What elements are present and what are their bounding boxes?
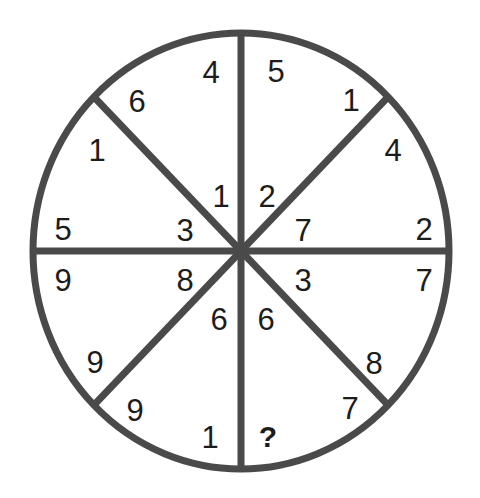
sector-number: 9 xyxy=(54,265,71,296)
sector-number: 9 xyxy=(126,395,143,426)
sector-number: 1 xyxy=(212,181,229,212)
sector-number: 1 xyxy=(201,422,218,453)
sector-number: 8 xyxy=(365,348,382,379)
sector-number: 7 xyxy=(341,393,358,424)
sector-number: 4 xyxy=(384,135,401,166)
puzzle-stage: 4 5 6 1 1 4 1 2 5 3 7 2 9 8 3 7 6 6 9 8 … xyxy=(0,0,480,498)
sector-number: 6 xyxy=(210,304,227,335)
sector-number: 8 xyxy=(176,265,193,296)
sector-number: 3 xyxy=(176,215,193,246)
sector-number: 5 xyxy=(267,56,284,87)
sector-number: 7 xyxy=(415,265,432,296)
sector-number: 9 xyxy=(86,347,103,378)
sector-number: 6 xyxy=(128,86,145,117)
sector-number: 6 xyxy=(257,304,274,335)
sector-number: 1 xyxy=(342,85,359,116)
sector-number: 7 xyxy=(294,215,311,246)
sector-number: 4 xyxy=(202,57,219,88)
sector-number: 5 xyxy=(54,214,71,245)
sector-number: 2 xyxy=(258,181,275,212)
circle-sector-diagram xyxy=(0,0,480,498)
sector-number: 1 xyxy=(88,135,105,166)
missing-value-question-mark: ? xyxy=(259,422,277,452)
sector-number: 2 xyxy=(415,214,432,245)
sector-number: 3 xyxy=(294,265,311,296)
